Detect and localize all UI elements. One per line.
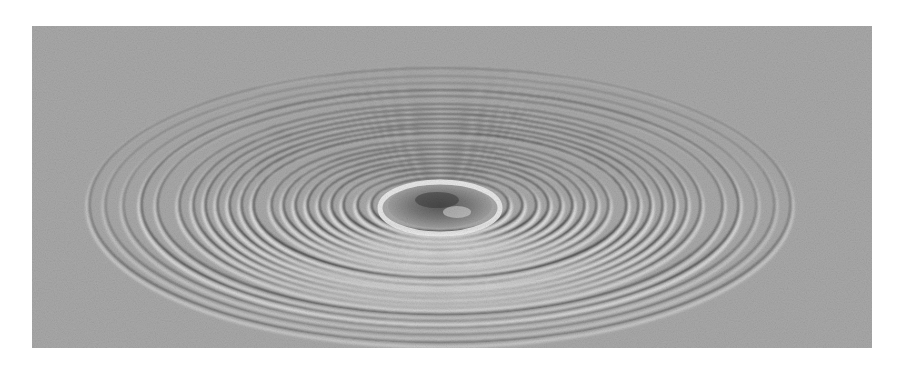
ripple-illustration — [32, 26, 872, 348]
ripple-photo — [32, 26, 872, 348]
page — [0, 0, 904, 372]
ripple-center-shadow — [415, 192, 459, 208]
ripple-center-highlight — [443, 206, 471, 218]
